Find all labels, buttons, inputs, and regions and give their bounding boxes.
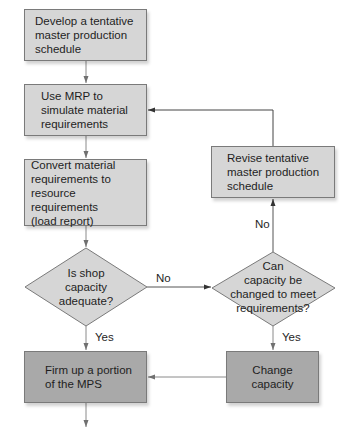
process-change-capacity: Change capacity: [226, 351, 319, 403]
process-use-mrp-text: Use MRP to simulate material requirement…: [25, 89, 128, 131]
edge-label-change-no: No: [255, 218, 270, 230]
process-develop-mps-text: Develop a tentative master production sc…: [25, 14, 133, 56]
process-convert-requirements-text: Convert material requirements to resourc…: [25, 158, 146, 228]
process-change-capacity-text: Change capacity: [227, 363, 318, 391]
process-firm-up-mps-text: Firm up a portion of the MPS: [25, 363, 132, 391]
edge-label-adequate-yes: Yes: [95, 331, 114, 343]
decision-adequate-text: Is shop capacity adequate?: [46, 266, 126, 308]
process-revise-mps: Revise tentative master production sched…: [211, 146, 335, 198]
process-firm-up-mps: Firm up a portion of the MPS: [24, 351, 147, 403]
edge-label-change-yes: Yes: [282, 331, 301, 343]
decision-change-text: Can capacity be changed to meet requirem…: [218, 259, 328, 315]
edge-label-adequate-no: No: [156, 272, 171, 284]
process-use-mrp: Use MRP to simulate material requirement…: [24, 84, 147, 136]
process-revise-mps-text: Revise tentative master production sched…: [212, 151, 319, 193]
process-convert-requirements: Convert material requirements to resourc…: [24, 159, 147, 226]
process-develop-mps: Develop a tentative master production sc…: [24, 9, 147, 61]
edge-revise-to-mrp: [148, 110, 273, 146]
